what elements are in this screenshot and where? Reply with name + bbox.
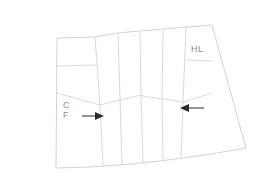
hip-line-label: HL bbox=[191, 44, 203, 54]
center-front-label-line2: F bbox=[63, 110, 69, 120]
pattern-outline bbox=[56, 25, 246, 168]
center-front-label-line1: C bbox=[63, 100, 70, 110]
pattern-diagram: C F HL bbox=[0, 0, 279, 193]
pattern-canvas: C F HL bbox=[0, 0, 279, 193]
